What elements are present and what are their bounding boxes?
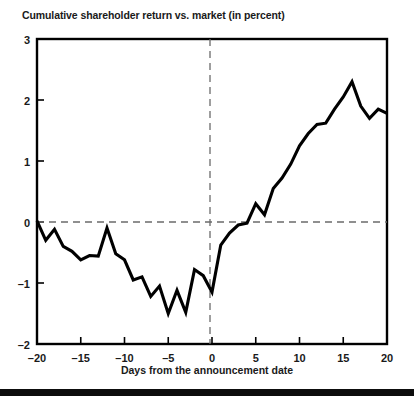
- bottom-rule: [0, 389, 414, 396]
- x-tick-label: –10: [115, 352, 133, 364]
- y-tick-label: 3: [24, 34, 30, 46]
- y-tick-label: –2: [18, 339, 30, 351]
- x-tick-label: –15: [72, 352, 90, 364]
- x-tick-label: 5: [253, 352, 259, 364]
- y-tick-labels: –2–10123: [18, 34, 30, 351]
- x-tick-label: 15: [337, 352, 349, 364]
- y-tick-label: 1: [24, 156, 30, 168]
- x-tick-label: 20: [381, 352, 393, 364]
- y-tick-label: 2: [24, 95, 30, 107]
- x-tick-label: 10: [293, 352, 305, 364]
- chart-figure: Cumulative shareholder return vs. market…: [0, 0, 414, 402]
- x-tick-label: 0: [209, 352, 215, 364]
- plot-area: –20–15–10–505101520 –2–10123: [0, 0, 414, 402]
- y-tick-label: 0: [24, 217, 30, 229]
- y-tick-label: –1: [18, 278, 30, 290]
- x-tick-label: –20: [28, 352, 46, 364]
- x-tick-labels: –20–15–10–505101520: [28, 352, 393, 364]
- plot-frame: [37, 39, 387, 344]
- x-axis-title: Days from the announcement date: [0, 364, 414, 376]
- x-tick-label: –5: [162, 352, 174, 364]
